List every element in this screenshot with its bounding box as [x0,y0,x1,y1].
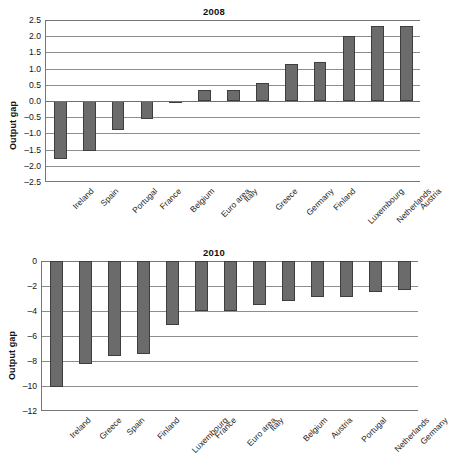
x-tick-label: Ireland [67,415,92,440]
x-tick-label: Portugal [130,186,159,215]
bar [108,261,121,356]
bar [224,261,237,311]
gridline [46,69,420,70]
y-tick-label: 0.0 [11,96,41,106]
y-tick-label: –0.5 [11,112,41,122]
y-axis-label-2008: Output gap [8,101,18,150]
gridline [42,361,418,362]
bar [195,261,208,311]
chart-title-2010: 2010 [0,247,428,258]
x-tick-label: France [158,186,184,212]
y-tick-label: –1.5 [11,145,41,155]
y-tick-label: –12 [7,406,37,416]
bar [256,83,269,101]
bar [282,261,295,301]
bar [141,101,154,119]
gridline [46,85,420,86]
y-tick-label: 1.5 [11,47,41,57]
zero-baseline [46,101,420,102]
x-tick-label: Finland [331,186,357,212]
gridline [42,386,418,387]
chart-title-2008: 2008 [0,6,428,17]
x-tick-label: Spain [99,186,121,208]
y-tick-label: –2 [7,281,37,291]
x-tick-label: Greece [97,415,123,441]
gridline [46,20,420,21]
gridline [46,36,420,37]
y-tick-label: 0 [7,256,37,266]
bar [227,90,240,101]
bar [285,64,298,101]
bar [253,261,266,305]
x-tick-label: Belgium [188,186,216,214]
bar [371,26,384,101]
bar [54,101,67,159]
bar [369,261,382,292]
bar [137,261,150,354]
bar [166,261,179,325]
chart-panel-2008: 2008 Output gap 2.52.01.51.00.50.0–0.5–1… [0,0,428,240]
bar [343,36,356,101]
bar [198,90,211,101]
bar [400,26,413,101]
bar [79,261,92,364]
y-tick-label: 0.5 [11,80,41,90]
bar [112,101,125,130]
y-tick-label: –10 [7,381,37,391]
y-tick-label: –1.0 [11,128,41,138]
y-tick-label: –4 [7,306,37,316]
gridline [46,117,420,118]
bar [340,261,353,297]
x-tick-label: Germany [304,186,335,217]
gridline [42,311,418,312]
x-tick-label: Spain [124,415,146,437]
y-tick-label: –2.5 [11,177,41,187]
chart-panel-2010: 2010 Output gap 0–2–4–6–8–10–12 IrelandG… [0,240,428,475]
y-tick-label: –6 [7,331,37,341]
y-tick-label: –8 [7,356,37,366]
gridline [46,150,420,151]
plot-area-2010 [41,261,418,411]
bar [83,101,96,151]
gridline [42,336,418,337]
gridline [46,52,420,53]
x-tick-label: Belgium [300,415,328,443]
x-tick-label: Finland [155,415,181,441]
bar [314,62,327,101]
x-tick-label: Greece [273,186,299,212]
x-tick-label: Ireland [71,186,96,211]
y-tick-label: –2.0 [11,161,41,171]
bar [50,261,63,387]
y-tick-label: 2.5 [11,15,41,25]
y-tick-label: 1.0 [11,64,41,74]
gridline [46,133,420,134]
plot-area-2008 [45,20,420,182]
y-tick-label: 2.0 [11,31,41,41]
bar [398,261,411,290]
bar [311,261,324,297]
x-tick-label: Austria [328,415,354,441]
gridline [46,166,420,167]
x-tick-label: Portugal [359,415,388,444]
